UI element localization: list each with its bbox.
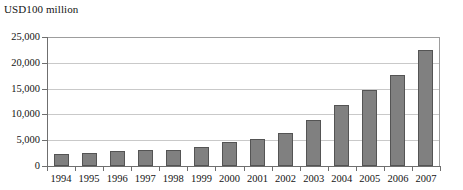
y-axis-tick-label: 15,000 — [0, 84, 40, 95]
bar — [306, 120, 321, 166]
y-axis-tick-label: 10,000 — [0, 109, 40, 120]
bar-chart-figure: USD100 million 05,00010,00015,00020,0002… — [0, 0, 463, 190]
x-axis-tick-mark — [131, 166, 132, 171]
bar — [110, 151, 125, 166]
bar — [362, 90, 377, 166]
x-axis-tick-mark — [215, 166, 216, 171]
bar — [166, 150, 181, 166]
x-axis-tick-label: 2007 — [406, 173, 446, 185]
x-axis-tick-mark — [440, 166, 441, 171]
x-axis-tick-mark — [412, 166, 413, 171]
bar — [334, 105, 349, 166]
x-axis-tick-mark — [75, 166, 76, 171]
x-axis-tick-mark — [300, 166, 301, 171]
y-axis-labels: 05,00010,00015,00020,00025,000 — [0, 0, 40, 190]
bar — [54, 154, 69, 166]
x-axis-tick-mark — [187, 166, 188, 171]
x-axis-tick-mark — [244, 166, 245, 171]
x-axis-tick-mark — [47, 166, 48, 171]
y-axis-tick-label: 0 — [0, 161, 40, 172]
bar — [250, 139, 265, 166]
bar — [138, 150, 153, 167]
x-axis-tick-mark — [103, 166, 104, 171]
y-axis-tick-label: 25,000 — [0, 32, 40, 43]
x-axis-tick-mark — [384, 166, 385, 171]
bar-series — [47, 37, 440, 166]
x-axis-tick-mark — [272, 166, 273, 171]
x-axis-tick-mark — [356, 166, 357, 171]
y-axis-tick-label: 5,000 — [0, 135, 40, 146]
bar — [418, 50, 433, 166]
y-axis-tick-label: 20,000 — [0, 58, 40, 69]
bar — [194, 147, 209, 166]
bar — [222, 142, 237, 166]
x-axis-tick-mark — [328, 166, 329, 171]
bar — [278, 133, 293, 166]
bar — [82, 153, 97, 166]
x-axis-tick-mark — [159, 166, 160, 171]
bar — [390, 75, 405, 166]
